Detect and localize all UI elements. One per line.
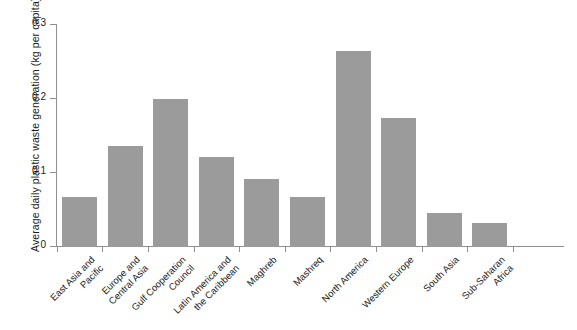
x-axis-tick xyxy=(330,247,331,252)
x-axis-tick xyxy=(102,247,103,252)
bar xyxy=(381,118,416,248)
x-axis-tick xyxy=(239,247,240,252)
bar xyxy=(336,51,371,247)
x-axis-tick xyxy=(422,247,423,252)
x-axis-tick xyxy=(57,247,58,252)
x-axis-tick xyxy=(513,247,514,252)
bar xyxy=(62,197,97,247)
bar-chart: Average daily plastic waste generation (… xyxy=(0,0,577,330)
bar xyxy=(108,146,143,247)
bar xyxy=(290,197,325,247)
bar xyxy=(427,213,462,247)
x-axis-tick xyxy=(194,247,195,252)
bars-layer xyxy=(0,0,577,247)
x-axis-tick xyxy=(376,247,377,252)
bar xyxy=(472,223,507,247)
x-axis-tick xyxy=(467,247,468,252)
x-axis-tick xyxy=(148,247,149,252)
bar xyxy=(153,99,188,247)
bar xyxy=(244,179,279,247)
bar xyxy=(199,157,234,247)
x-axis-tick xyxy=(285,247,286,252)
